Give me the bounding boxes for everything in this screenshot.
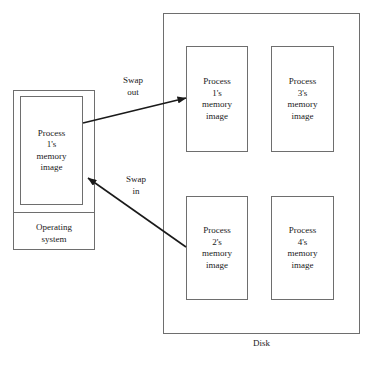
memory-process-1-slot: Process 1's memory image <box>20 96 83 205</box>
disk-slot-process-4: Process 4's memory image <box>271 196 334 300</box>
swapping-diagram: Process 1's memory image Operating syste… <box>0 0 365 365</box>
swap-in-label: Swap in <box>108 174 164 197</box>
disk-slot-process-2-label: Process 2's memory image <box>187 225 247 271</box>
disk-slot-process-1: Process 1's memory image <box>186 46 248 152</box>
disk-caption: Disk <box>163 338 360 350</box>
memory-process-1-label: Process 1's memory image <box>21 128 82 174</box>
disk-slot-process-2: Process 2's memory image <box>186 196 248 300</box>
disk-slot-process-3: Process 3's memory image <box>271 46 334 152</box>
disk-slot-process-3-label: Process 3's memory image <box>272 76 333 122</box>
operating-system-label: Operating system <box>13 222 95 245</box>
os-divider <box>14 212 94 213</box>
disk-slot-process-1-label: Process 1's memory image <box>187 76 247 122</box>
disk-slot-process-4-label: Process 4's memory image <box>272 225 333 271</box>
swap-out-label: Swap out <box>105 75 161 98</box>
